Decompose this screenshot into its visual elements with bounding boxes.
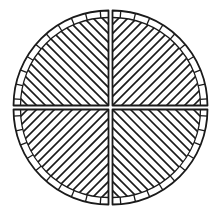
quartered-circle-diagram: [0, 0, 219, 214]
hatch-lines: [0, 0, 219, 214]
rind-band: [0, 0, 219, 214]
hatch-lines: [0, 0, 219, 214]
quadrant-bottom-right: [0, 0, 219, 214]
quadrant-top-right: [0, 0, 219, 214]
diagram-canvas: [0, 0, 219, 214]
hatch-lines: [0, 0, 219, 214]
rind-band: [0, 0, 219, 214]
rind-band: [0, 0, 219, 214]
rind-band: [0, 0, 219, 214]
quadrant-bottom-left: [0, 0, 219, 214]
hatch-lines: [0, 0, 219, 214]
quadrant-top-left: [0, 0, 219, 214]
